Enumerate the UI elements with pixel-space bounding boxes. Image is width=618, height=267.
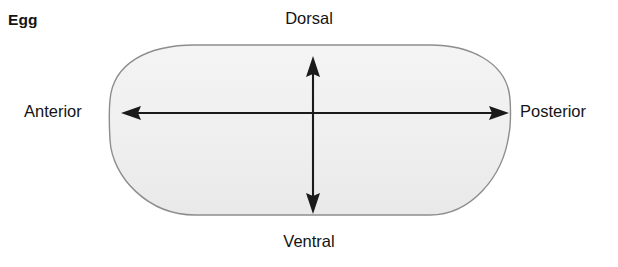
axis-label-dorsal: Dorsal xyxy=(0,10,618,27)
axis-label-ventral: Ventral xyxy=(0,233,618,250)
egg-axes-diagram: Egg Dorsal Ventral Anterior Posterior xyxy=(0,0,618,267)
egg-diagram-canvas xyxy=(0,0,618,267)
axis-label-posterior: Posterior xyxy=(520,103,586,120)
axis-label-anterior: Anterior xyxy=(24,103,82,120)
